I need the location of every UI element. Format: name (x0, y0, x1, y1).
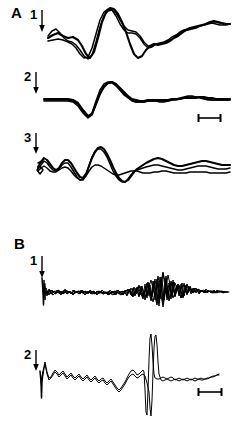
trace-group-a3 (37, 147, 230, 182)
stimulus-arrow-a2 (33, 72, 39, 94)
stimulus-arrow-b1 (39, 256, 45, 278)
calibration-bar-panel-b (198, 388, 222, 396)
trace-a3-sweep-2 (38, 149, 230, 182)
trace-a3-sweep-1 (38, 147, 230, 182)
figure-root: A 1 2 3 B 1 2 (0, 0, 237, 433)
trace-b2-sweep-2 (41, 335, 219, 416)
trace-canvas (0, 0, 237, 433)
trace-group-b1 (42, 272, 229, 307)
trace-a1-sweep-3 (48, 10, 230, 59)
trace-b2-sweep-1 (41, 334, 219, 415)
trace-a1-sweep-2 (48, 9, 230, 58)
stimulus-arrow-b2 (33, 350, 39, 371)
stimulus-arrow-a3 (33, 133, 39, 154)
trace-group-a2 (44, 82, 230, 118)
calibration-bar-panel-a (198, 114, 221, 122)
stimulus-arrow-a1 (39, 10, 45, 32)
trace-group-b2 (40, 334, 219, 416)
trace-group-a1 (48, 8, 230, 59)
trace-b2-onset-transient (40, 371, 43, 398)
trace-a1-sweep-1 (48, 8, 230, 58)
